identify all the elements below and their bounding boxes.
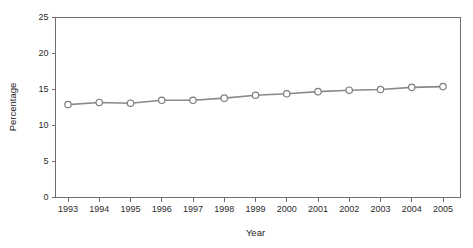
x-tick-label: 1996 bbox=[152, 204, 172, 214]
data-point-marker bbox=[346, 87, 352, 93]
y-tick-label: 0 bbox=[43, 192, 48, 202]
x-axis-ticks bbox=[68, 198, 443, 202]
y-tick-label: 5 bbox=[43, 156, 48, 166]
plot-frame bbox=[56, 18, 461, 198]
data-point-marker bbox=[440, 83, 446, 89]
data-point-marker bbox=[127, 100, 133, 106]
x-tick-label: 1995 bbox=[120, 204, 140, 214]
x-tick-label: 2001 bbox=[308, 204, 328, 214]
data-point-marker bbox=[221, 95, 227, 101]
x-tick-label: 2003 bbox=[370, 204, 390, 214]
x-axis-tick-labels: 1993199419951996199719981999200020012002… bbox=[58, 204, 453, 214]
x-tick-label: 1999 bbox=[245, 204, 265, 214]
data-point-marker bbox=[159, 97, 165, 103]
data-point-marker bbox=[409, 84, 415, 90]
x-tick-label: 2005 bbox=[433, 204, 453, 214]
y-axis-title: Percentage bbox=[7, 83, 18, 132]
line-chart: 0510152025 19931994199519961997199819992… bbox=[0, 0, 473, 248]
y-tick-label: 20 bbox=[38, 48, 48, 58]
x-tick-label: 1993 bbox=[58, 204, 78, 214]
data-point-marker bbox=[96, 99, 102, 105]
data-point-marker bbox=[65, 101, 71, 107]
x-tick-label: 2004 bbox=[402, 204, 422, 214]
data-point-marker bbox=[377, 86, 383, 92]
chart-canvas: 0510152025 19931994199519961997199819992… bbox=[0, 0, 473, 248]
x-tick-label: 1998 bbox=[214, 204, 234, 214]
x-tick-label: 1997 bbox=[183, 204, 203, 214]
y-tick-label: 10 bbox=[38, 120, 48, 130]
x-tick-label: 2002 bbox=[339, 204, 359, 214]
x-tick-label: 1994 bbox=[89, 204, 109, 214]
data-point-marker bbox=[315, 88, 321, 94]
data-point-marker bbox=[284, 91, 290, 97]
data-point-marker bbox=[252, 92, 258, 98]
x-axis-title: Year bbox=[246, 227, 265, 238]
x-tick-label: 2000 bbox=[277, 204, 297, 214]
y-tick-label: 25 bbox=[38, 12, 48, 22]
y-axis-ticks bbox=[52, 18, 56, 198]
data-point-marker bbox=[190, 97, 196, 103]
y-tick-label: 15 bbox=[38, 84, 48, 94]
y-axis-tick-labels: 0510152025 bbox=[38, 12, 48, 202]
data-point-markers bbox=[65, 83, 446, 107]
